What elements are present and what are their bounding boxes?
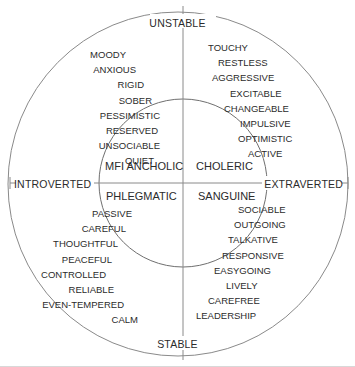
trait-item: IMPULSIVE	[196, 116, 346, 131]
trait-item: ACTIVE	[196, 146, 346, 161]
trait-item: RIGID	[0, 77, 160, 92]
trait-item: RESERVED	[0, 123, 160, 138]
trait-item: CALM	[0, 312, 160, 327]
trait-item: EASYGOING	[196, 263, 346, 278]
trait-item: OPTIMISTIC	[196, 131, 346, 146]
trait-item: EVEN-TEMPERED	[0, 297, 160, 312]
trait-item: RELIABLE	[0, 282, 160, 297]
trait-item: MOODY	[0, 47, 160, 62]
trait-item: LIVELY	[196, 278, 346, 293]
trait-item: CHANGEABLE	[196, 101, 346, 116]
trait-item: TOUCHY	[196, 40, 346, 55]
trait-item: QUIET	[0, 153, 160, 168]
trait-item: SOBER	[0, 93, 160, 108]
trait-item: THOUGHTFUL	[0, 236, 160, 251]
axis-label-extraverted: EXTRAVERTED	[264, 178, 343, 190]
trait-item: SOCIABLE	[196, 202, 346, 217]
trait-list-choleric: TOUCHYRESTLESSAGGRESSIVEEXCITABLECHANGEA…	[196, 40, 346, 162]
trait-list-phlegmatic: PASSIVECAREFULTHOUGHTFULPEACEFULCONTROLL…	[0, 206, 160, 328]
trait-item: CONTROLLED	[0, 267, 160, 282]
temperament-sanguine: SANGUINE	[198, 190, 255, 202]
axis-label-introverted: INTROVERTED	[14, 178, 91, 190]
trait-item: UNSOCIABLE	[0, 138, 160, 153]
trait-item: RESPONSIVE	[196, 248, 346, 263]
trait-item: LEADERSHIP	[196, 308, 346, 323]
trait-item: PEACEFUL	[0, 252, 160, 267]
trait-item: PESSIMISTIC	[0, 108, 160, 123]
trait-item: ANXIOUS	[0, 62, 160, 77]
temperament-phlegmatic: PHLEGMATIC	[106, 190, 177, 202]
trait-item: RESTLESS	[196, 55, 346, 70]
axis-label-unstable: UNSTABLE	[0, 17, 355, 29]
trait-item: CAREFREE	[196, 293, 346, 308]
trait-item: TALKATIVE	[196, 232, 346, 247]
trait-item: AGGRESSIVE	[196, 70, 346, 85]
trait-item: OUTGOING	[196, 217, 346, 232]
trait-list-melancholic: MOODYANXIOUSRIGIDSOBERPESSIMISTICRESERVE…	[0, 47, 160, 169]
trait-item: EXCITABLE	[196, 86, 346, 101]
axis-label-stable: STABLE	[0, 338, 355, 350]
temperament-diagram: UNSTABLE STABLE INTROVERTED EXTRAVERTED …	[0, 0, 355, 367]
trait-list-sanguine: SOCIABLEOUTGOINGTALKATIVERESPONSIVEEASYG…	[196, 202, 346, 324]
trait-item: CAREFUL	[0, 221, 160, 236]
temperament-choleric: CHOLERIC	[196, 160, 253, 172]
trait-item: PASSIVE	[0, 206, 160, 221]
